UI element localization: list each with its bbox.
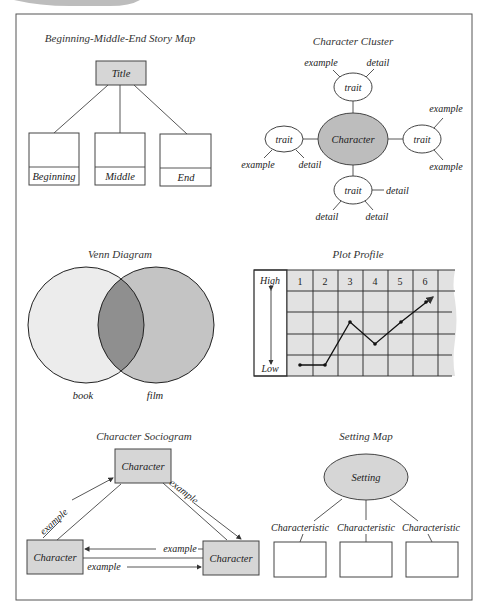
story-map-title: Beginning-Middle-End Story Map [45,32,196,44]
cluster-title: Character Cluster [313,35,394,47]
plot-high-label: High [259,275,280,286]
trait-left-branch-2: detail [299,159,322,170]
trait-bottom-label: trait [344,185,361,196]
plot-profile: Plot Profile High Low 1 2 3 4 5 6 [254,248,457,376]
trait-left-branch-1: example [241,159,275,170]
plot-title: Plot Profile [331,248,383,260]
plot-low-label: Low [260,363,279,374]
characteristic-label-2: Characteristic [337,522,395,533]
trait-left-label: trait [275,134,292,145]
plot-col-2: 2 [323,276,328,287]
character-sociogram: Character Sociogram Character Character … [27,430,259,575]
characteristic-label-1: Characteristic [271,522,329,533]
trait-bottom-side: detail [386,185,409,196]
trait-top-label: trait [344,82,361,93]
characteristic-label-3: Characteristic [402,522,460,533]
end-label: End [177,172,196,183]
sociogram-top-label: Character [121,461,165,472]
sociogram-left-label: Character [33,552,77,563]
venn-film-label: film [147,390,164,401]
venn-title: Venn Diagram [88,248,152,260]
plot-col-6: 6 [423,276,428,287]
plot-col-3: 3 [348,276,353,287]
setting-map-title: Setting Map [339,430,393,442]
characteristic-box-1 [274,542,326,577]
trait-top-branch-2: detail [367,57,390,68]
characteristic-box-3 [406,542,458,577]
edge-left-right-label: example [87,561,121,572]
edge-right-left-label: example [163,543,197,554]
plot-col-1: 1 [298,276,303,287]
trait-right-branch-1: example [429,103,463,114]
graphic-organizers-page: Beginning-Middle-End Story Map Title Beg… [0,0,484,612]
trait-top-branch-1: example [304,57,338,68]
trait-right-branch-2: example [429,161,463,172]
characteristic-box-2 [340,542,392,577]
story-title-label: Title [112,68,131,79]
character-center-label: Character [331,134,375,145]
sociogram-title: Character Sociogram [96,430,192,442]
venn-book-label: book [73,390,94,401]
middle-label: Middle [104,171,135,182]
sociogram-right-label: Character [209,553,253,564]
character-cluster: Character Cluster Character trait exampl… [241,35,463,222]
venn-diagram: Venn Diagram book film [28,248,214,401]
beginning-label: Beginning [32,171,75,182]
trait-bottom-branch-2: detail [366,211,389,222]
trait-right-label: trait [413,134,430,145]
plot-col-5: 5 [398,276,403,287]
page-tab-shape [14,0,140,6]
setting-label: Setting [351,472,380,483]
edge-left-up-label: example [38,506,71,537]
plot-col-4: 4 [373,276,378,287]
story-map: Beginning-Middle-End Story Map Title Beg… [29,32,211,186]
trait-bottom-branch-1: detail [316,211,339,222]
setting-map: Setting Map Setting Characteristic Chara… [271,430,460,577]
